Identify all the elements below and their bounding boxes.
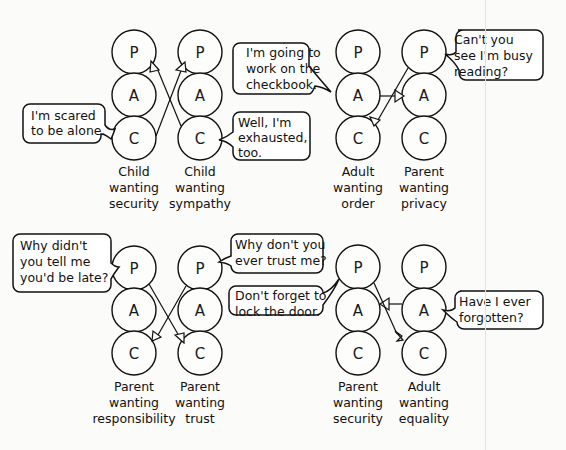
svg-text:privacy: privacy: [401, 196, 447, 211]
ego-letter: P: [419, 259, 428, 277]
page-margin-line: [485, 0, 486, 450]
person-label-left: Child wanting security: [109, 164, 160, 211]
speech-bubble-right: Have I ever forgotten?: [443, 291, 543, 329]
svg-text:Parent: Parent: [338, 379, 378, 394]
svg-text:sympathy: sympathy: [169, 196, 232, 211]
speech-bubble-right: Why don't you ever trust me?: [219, 234, 327, 273]
arrowhead-icon: [150, 61, 159, 72]
bubble-line: I'm going to: [246, 45, 321, 60]
speech-bubble-left: I'm going to work on the checkbook.: [233, 43, 331, 94]
transactional-analysis-diagram: P A C P A C I'm s: [0, 0, 566, 450]
ego-letter: P: [353, 259, 362, 277]
ego-letter: C: [195, 130, 205, 148]
ego-stack-left: P A C: [336, 245, 380, 375]
bubble-line: you tell me: [20, 254, 91, 269]
svg-text:Parent: Parent: [404, 164, 444, 179]
ego-letter: C: [353, 345, 363, 363]
svg-text:wanting: wanting: [399, 395, 449, 410]
svg-text:responsibility: responsibility: [92, 411, 176, 426]
bubble-line: checkbook.: [246, 77, 317, 92]
bubble-line: Can't you: [454, 32, 514, 47]
ego-letter: P: [195, 260, 204, 278]
speech-bubble-left: Why didn't you tell me you'd be late?: [13, 234, 119, 292]
ego-letter: A: [129, 87, 140, 105]
svg-text:wanting: wanting: [109, 395, 159, 410]
bubble-line: I'm scared: [31, 108, 96, 123]
ego-stack-right: P A C: [178, 30, 222, 160]
bubble-line: Have I ever: [459, 294, 532, 309]
bubble-line: forgotten?: [459, 310, 524, 325]
svg-text:wanting: wanting: [175, 395, 225, 410]
bubble-line: you'd be late?: [20, 270, 108, 285]
ego-stack-right: P A C: [178, 246, 222, 375]
ego-letter: C: [195, 345, 205, 363]
ego-letter: A: [419, 87, 430, 105]
svg-text:wanting: wanting: [175, 180, 225, 195]
svg-text:order: order: [341, 196, 375, 211]
arrowhead-icon: [175, 333, 184, 343]
bubble-line: lock the door.: [235, 304, 320, 319]
ego-letter: P: [129, 44, 138, 62]
ego-stack-left: P A C: [112, 30, 156, 160]
ego-stack-right: P A C: [402, 245, 446, 375]
arrowhead-icon: [395, 331, 403, 341]
ego-letter: P: [195, 44, 204, 62]
bubble-line: too.: [238, 145, 262, 160]
person-label-right: Adult wanting equality: [399, 379, 450, 426]
person-label-left: Adult wanting order: [333, 164, 383, 211]
bubble-line: ever trust me?: [235, 253, 327, 268]
bubble-line: Why don't you: [235, 237, 325, 252]
ego-letter: C: [419, 130, 429, 148]
speech-bubble-left: I'm scared to be alone.: [23, 104, 115, 143]
panel-top-right: P A C P A C I'm going to: [174, 0, 543, 211]
person-label-right: Child wanting sympathy: [169, 164, 232, 211]
speech-bubble-right: Well, I'm exhausted, too.: [219, 112, 310, 160]
bubble-line: Well, I'm: [238, 115, 292, 130]
bubble-line: exhausted,: [238, 130, 307, 145]
panel-bottom-left: P A C P A C Why didn't you tel: [13, 234, 327, 426]
bubble-line: Don't forget to: [235, 288, 327, 303]
ego-letter: A: [195, 302, 206, 320]
ego-letter: P: [353, 44, 362, 62]
svg-text:Parent: Parent: [180, 379, 220, 394]
person-label-left: Parent wanting responsibility: [92, 379, 176, 426]
ego-letter: A: [129, 302, 140, 320]
ego-letter: P: [129, 260, 138, 278]
svg-text:security: security: [333, 411, 384, 426]
ego-letter: A: [353, 87, 364, 105]
ego-stack-left: P A C: [112, 246, 156, 375]
person-label-right: Parent wanting trust: [175, 379, 225, 426]
ego-stack-right: P A C: [402, 30, 446, 160]
svg-text:trust: trust: [185, 411, 214, 426]
svg-text:wanting: wanting: [109, 180, 159, 195]
ego-letter: P: [419, 44, 428, 62]
svg-text:wanting: wanting: [333, 395, 383, 410]
person-label-left: Parent wanting security: [333, 379, 384, 426]
ego-letter: C: [129, 130, 139, 148]
ego-stack-left: P A C: [336, 30, 380, 160]
svg-text:wanting: wanting: [333, 180, 383, 195]
svg-text:security: security: [109, 196, 160, 211]
svg-text:Child: Child: [118, 164, 150, 179]
bubble-line: Why didn't: [20, 238, 87, 253]
bubble-line: work on the: [246, 61, 321, 76]
ego-letter: A: [195, 87, 206, 105]
svg-text:Adult: Adult: [342, 164, 375, 179]
ego-letter: C: [129, 345, 139, 363]
ego-letter: A: [353, 302, 364, 320]
svg-text:equality: equality: [399, 411, 450, 426]
svg-text:wanting: wanting: [399, 180, 449, 195]
svg-text:Parent: Parent: [114, 379, 154, 394]
svg-text:Child: Child: [184, 164, 216, 179]
person-label-right: Parent wanting privacy: [399, 164, 449, 211]
ego-letter: C: [353, 130, 363, 148]
speech-bubble-left: Don't forget to lock the door.: [229, 279, 339, 319]
ego-letter: A: [419, 302, 430, 320]
bubble-line: see I'm busy: [454, 48, 534, 63]
bubble-line: to be alone.: [31, 123, 106, 138]
svg-text:Adult: Adult: [408, 379, 441, 394]
ego-letter: C: [419, 345, 429, 363]
bubble-line: reading?: [454, 64, 508, 79]
